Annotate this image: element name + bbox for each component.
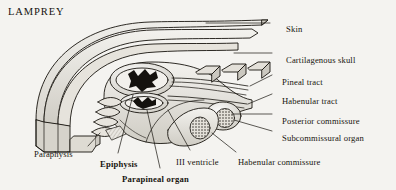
parapineal-vesicle xyxy=(120,93,168,113)
label-parapineal-organ: Parapineal organ xyxy=(122,175,189,184)
label-iii-ventricle: III ventricle xyxy=(176,158,219,167)
label-subcommissural-organ: Subcommissural organ xyxy=(282,134,364,143)
leader-habenular-tract xyxy=(248,94,272,104)
label-paraphysis: Paraphysis xyxy=(34,150,73,159)
leader-habenular-commissure xyxy=(212,133,236,152)
label-epiphysis: Epiphysis xyxy=(100,160,138,169)
leader-subcommissural-organ xyxy=(234,120,272,131)
label-skin: Skin xyxy=(286,25,302,34)
label-pineal-tract: Pineal tract xyxy=(282,78,323,87)
epiphysis-vesicle xyxy=(110,63,174,97)
label-posterior-commissure: Posterior commissure xyxy=(282,117,360,126)
label-habenular-tract: Habenular tract xyxy=(282,97,337,106)
leader-pineal-tract xyxy=(250,75,272,86)
figure-canvas: LAMPREY xyxy=(0,0,396,190)
label-habenular-commissure: Habenular commissure xyxy=(238,158,320,167)
label-cartilagenous-skull: Cartilagenous skull xyxy=(286,56,355,65)
